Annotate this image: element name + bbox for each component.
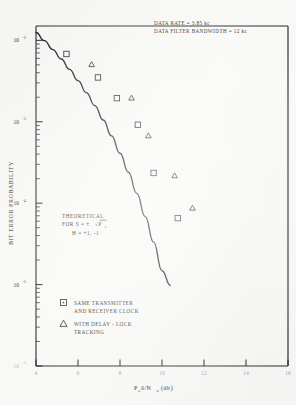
legend-marker-square xyxy=(61,300,67,306)
x-tick-label: 12 xyxy=(201,370,207,376)
data-point-triangle xyxy=(172,173,178,178)
x-tick-label: 6 xyxy=(77,370,80,376)
x-tick-label: 14 xyxy=(243,370,249,376)
y-tick-exponent: -5 xyxy=(23,280,26,284)
annot-h-values: H = +1, -1 xyxy=(72,230,99,236)
theoretical-annotation: THEORETICAL FOR S = ± √P s H = +1, -1 xyxy=(62,213,107,236)
data-point-square xyxy=(135,122,140,127)
legend: SAME TRANSMITTER AND RECEIVER CLOCK WITH… xyxy=(60,300,139,336)
bit-error-probability-chart: 10-210-310-410-510-6 46810121416 BIT ERR… xyxy=(0,0,296,405)
y-tick-label: 10 xyxy=(14,200,20,206)
data-point-triangle xyxy=(146,133,152,138)
x-axis-title-sub-o: o xyxy=(157,388,159,393)
note-data-rate: DATA RATE = 3.85 kc xyxy=(154,20,210,26)
legend-item-1-line1: WITH DELAY - LOCK xyxy=(74,321,132,327)
data-point-square xyxy=(114,95,119,100)
y-axis-title: BIT ERROR PROBABILITY xyxy=(8,161,14,245)
x-axis-title-group: P s δ/N o (db) xyxy=(134,385,173,393)
legend-marker-triangle xyxy=(60,320,67,326)
data-rate-notes: DATA RATE = 3.85 kc DATA FILTER BANDWIDT… xyxy=(154,20,248,34)
data-point-triangle xyxy=(129,95,135,100)
y-axis-ticks xyxy=(36,40,43,366)
y-tick-label: 10 xyxy=(14,363,20,369)
y-axis-title-group: BIT ERROR PROBABILITY xyxy=(8,161,14,245)
x-axis-title-sub-s: s xyxy=(138,388,140,393)
data-point-square xyxy=(95,75,100,80)
x-tick-label: 4 xyxy=(35,370,38,376)
y-tick-label: 10 xyxy=(14,119,20,125)
x-axis-ticks xyxy=(36,360,288,367)
data-point-square xyxy=(64,51,69,56)
legend-item-1-line2: TRACKING xyxy=(74,329,104,335)
y-tick-exponent: -4 xyxy=(23,199,26,203)
x-axis-tick-labels: 46810121416 xyxy=(35,370,292,376)
data-point-triangle xyxy=(190,205,196,210)
square-center-dot-icon xyxy=(63,302,65,304)
y-tick-label: 10 xyxy=(14,37,20,43)
y-tick-exponent: -2 xyxy=(23,36,26,40)
annot-for-s-equals: FOR S = ± xyxy=(62,221,90,227)
note-data-filter-bandwidth: DATA FILTER BANDWIDTH = 12 kc xyxy=(154,28,248,34)
plot-frame xyxy=(36,26,288,366)
x-tick-label: 8 xyxy=(119,370,122,376)
series-delay-lock-markers xyxy=(89,62,195,210)
legend-item-0-line2: AND RECEIVER CLOCK xyxy=(74,308,139,314)
triangle-icon xyxy=(60,320,67,326)
annot-radical-ps: √P xyxy=(95,221,102,227)
legend-item-0-line1: SAME TRANSMITTER xyxy=(74,300,133,306)
x-tick-label: 16 xyxy=(285,370,291,376)
annot-sub-s: s xyxy=(105,225,107,229)
annot-theoretical: THEORETICAL xyxy=(62,213,104,219)
theoretical-curve xyxy=(36,32,170,285)
data-point-square xyxy=(175,215,180,220)
x-axis-title-unit: (db) xyxy=(161,385,173,392)
series-same-clock-markers xyxy=(64,51,181,221)
figure-root: 10-210-310-410-510-6 46810121416 BIT ERR… xyxy=(0,0,296,405)
x-tick-label: 10 xyxy=(159,370,165,376)
y-axis-tick-labels: 10-210-310-410-510-6 xyxy=(14,36,27,369)
y-tick-exponent: -3 xyxy=(23,117,26,121)
data-point-triangle xyxy=(89,62,95,67)
y-tick-exponent: -6 xyxy=(23,361,26,365)
y-tick-label: 10 xyxy=(14,282,20,288)
x-axis-title-mid: δ/N xyxy=(141,385,152,391)
data-point-square xyxy=(151,170,156,175)
